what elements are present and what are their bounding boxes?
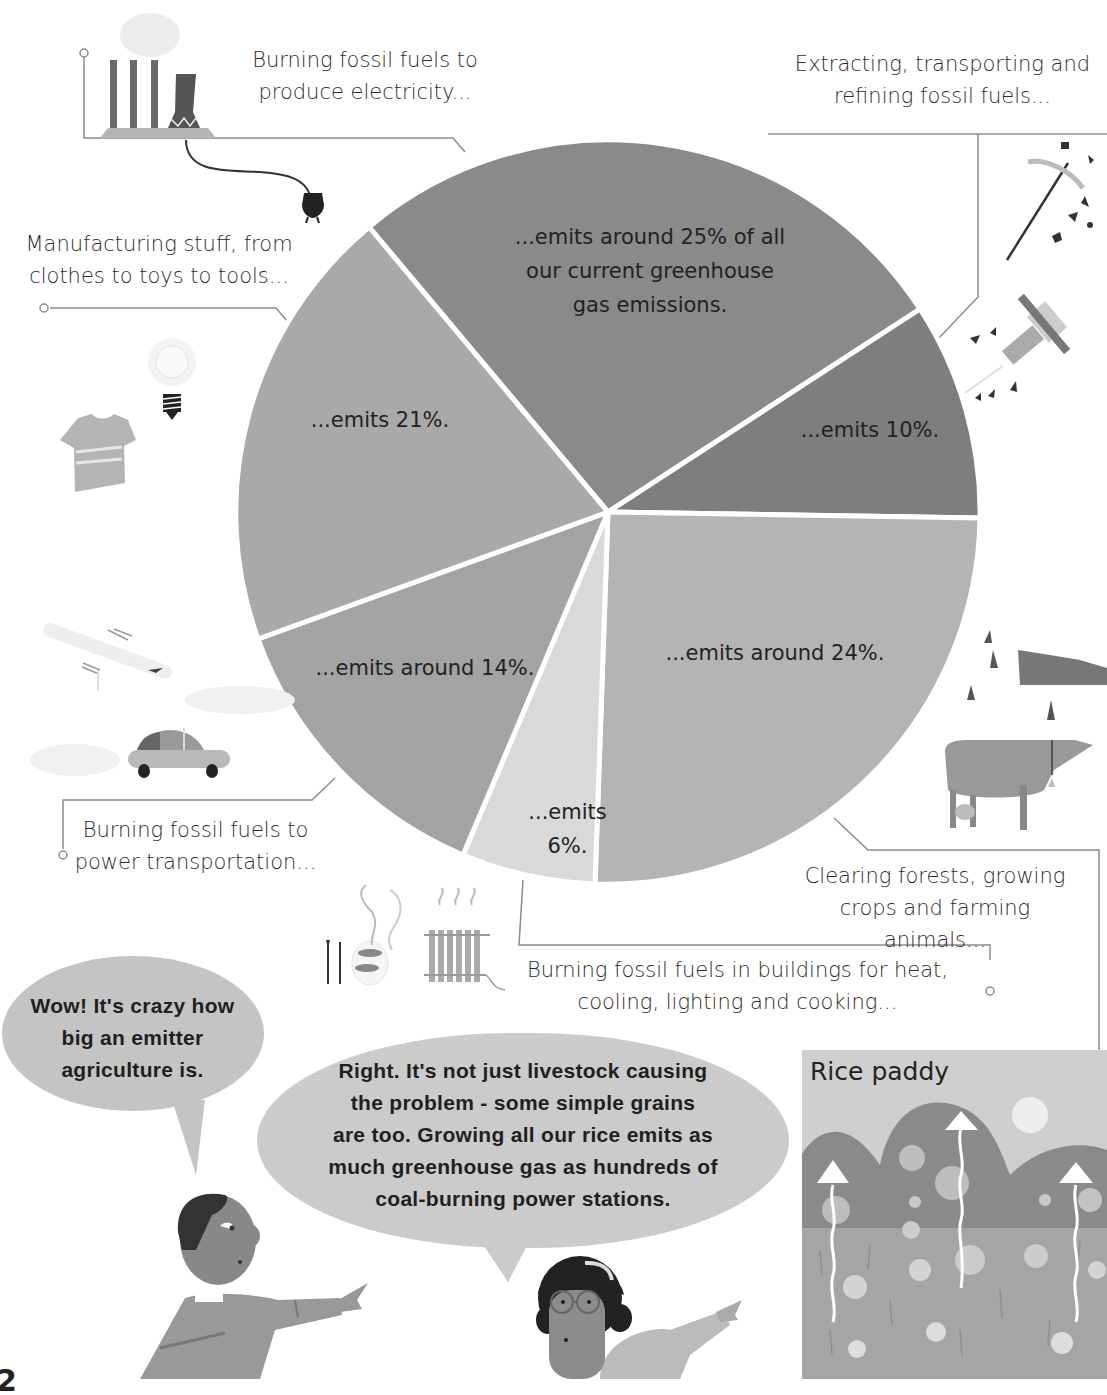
slice-label-electricity-l2: our current greenhouse: [490, 254, 810, 288]
cow-icon: [945, 740, 1093, 830]
lightbulb-icon: [148, 338, 196, 420]
boy-speech-text: Wow! It's crazy how big an emitter agric…: [10, 990, 255, 1086]
slice-label-electricity-l1: ...emits around 25% of all: [490, 220, 810, 254]
callout-electricity: Burning fossil fuels to produce electric…: [240, 44, 490, 108]
girl-speech-text: Right. It's not just livestock causing t…: [290, 1055, 756, 1215]
boy-speech-line3: agriculture is.: [10, 1054, 255, 1086]
callout-buildings-line1: Burning fossil fuels in buildings for he…: [515, 954, 960, 986]
shirt-icon: [60, 414, 136, 492]
callout-transportation-line1: Burning fossil fuels to: [68, 814, 323, 846]
slice-label-manufacturing: ...emits 21%.: [300, 403, 460, 437]
slice-label-agriculture-l1: ...emits around 24%.: [650, 636, 900, 670]
trees-icon: [967, 630, 1107, 720]
girl-character: [536, 1256, 742, 1379]
callout-manufacturing-line2: clothes to toys to tools...: [14, 260, 304, 292]
callout-transportation-line2: power transportation...: [68, 846, 323, 878]
callout-electricity-line1: Burning fossil fuels to: [240, 44, 490, 76]
callout-extracting-line2: refining fossil fuels...: [790, 80, 1095, 112]
callout-agriculture-line1: Clearing forests, growing: [790, 860, 1080, 892]
girl-speech-line1: Right. It's not just livestock causing: [290, 1055, 756, 1087]
girl-speech-line4: much greenhouse gas as hundreds of: [290, 1151, 756, 1183]
slice-label-buildings-l2: 6%.: [515, 829, 620, 863]
boy-bubble-tail: [172, 1100, 205, 1175]
girl-speech-line2: the problem - some simple grains: [290, 1087, 756, 1119]
girl-speech-line5: coal-burning power stations.: [290, 1183, 756, 1215]
callout-buildings-line2: cooling, lighting and cooking...: [515, 986, 960, 1018]
car-icon: [128, 728, 230, 778]
slice-label-buildings: ...emits 6%.: [515, 795, 620, 863]
callout-agriculture-line2: crops and farming animals...: [790, 892, 1080, 956]
drill-icon: [965, 294, 1070, 401]
callout-extracting: Extracting, transporting and refining fo…: [790, 48, 1095, 112]
callout-agriculture: Clearing forests, growing crops and farm…: [790, 860, 1080, 956]
cooking-icon: [326, 885, 400, 985]
slice-label-manufacturing-l1: ...emits 21%.: [300, 403, 460, 437]
boy-speech-line1: Wow! It's crazy how: [10, 990, 255, 1022]
radiator-icon: [424, 888, 505, 990]
callout-electricity-line2: produce electricity...: [240, 76, 490, 108]
slice-label-extracting-l1: ...emits 10%.: [790, 413, 950, 447]
boy-speech-line2: big an emitter: [10, 1022, 255, 1054]
pickaxe-icon: [1007, 142, 1094, 260]
slice-label-extracting: ...emits 10%.: [790, 413, 950, 447]
callout-buildings: Burning fossil fuels in buildings for he…: [515, 954, 960, 1018]
callout-extracting-line1: Extracting, transporting and: [790, 48, 1095, 80]
boy-character: [140, 1194, 368, 1379]
callout-manufacturing-line1: Manufacturing stuff, from: [14, 228, 304, 260]
slice-label-transportation-l1: ...emits around 14%.: [300, 651, 550, 685]
slice-label-buildings-l1: ...emits: [515, 795, 620, 829]
airplane-icon: [50, 629, 165, 690]
callout-manufacturing: Manufacturing stuff, from clothes to toy…: [14, 228, 304, 292]
rice-paddy-title: Rice paddy: [810, 1057, 949, 1086]
plug-icon: [302, 193, 324, 223]
girl-speech-line3: are too. Growing all our rice emits as: [290, 1119, 756, 1151]
slice-label-electricity-l3: gas emissions.: [490, 288, 810, 322]
slice-agriculture: [595, 512, 980, 884]
slice-label-transportation: ...emits around 14%.: [300, 651, 550, 685]
callout-transportation: Burning fossil fuels to power transporta…: [68, 814, 323, 878]
slice-label-agriculture: ...emits around 24%.: [650, 636, 900, 670]
slice-label-electricity: ...emits around 25% of all our current g…: [490, 220, 810, 322]
page-number: 2: [0, 1366, 17, 1395]
rice-paddy-illustration: [802, 1050, 1107, 1379]
